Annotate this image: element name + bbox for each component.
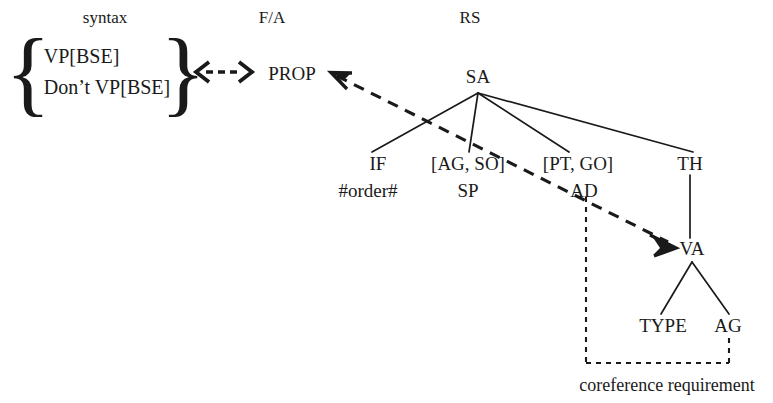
- node-va: VA: [680, 239, 705, 258]
- node-prop: PROP: [268, 64, 316, 83]
- node-th: TH: [677, 154, 702, 173]
- arrowhead-right: [239, 62, 252, 82]
- coreference-requirement-label: coreference requirement: [579, 376, 754, 394]
- va-branches: [661, 262, 729, 314]
- sublabel-order: #order#: [338, 181, 397, 200]
- node-if: IF: [370, 154, 387, 173]
- sublabel-ad: AD: [570, 181, 597, 200]
- branch-sa-th: [478, 93, 693, 152]
- node-ag: AG: [714, 316, 741, 335]
- sa-branches: [372, 93, 693, 152]
- syntax-set-items: VP[BSE] Don’t VP[BSE]: [44, 41, 171, 103]
- coreference-bracket: [586, 197, 729, 363]
- syntax-item-dont-vp-bse: Don’t VP[BSE]: [44, 72, 171, 103]
- node-sa: SA: [466, 67, 490, 86]
- sublabel-sp: SP: [457, 181, 478, 200]
- node-type: TYPE: [639, 316, 687, 335]
- node-ag-so: [AG, SO]: [431, 154, 505, 173]
- column-header-syntax: syntax: [83, 9, 127, 26]
- node-pt-go: [PT, GO]: [543, 154, 613, 173]
- branch-va-type: [661, 262, 692, 314]
- branch-va-ag: [692, 262, 729, 314]
- column-header-rs: RS: [460, 9, 481, 26]
- syntax-item-vp-bse: VP[BSE]: [44, 41, 171, 72]
- diagram-canvas: PROP ===== --> PROP ===== --> syntax F/A…: [0, 0, 773, 403]
- column-header-fa: F/A: [259, 9, 285, 26]
- branch-sa-ptgo: [478, 93, 569, 152]
